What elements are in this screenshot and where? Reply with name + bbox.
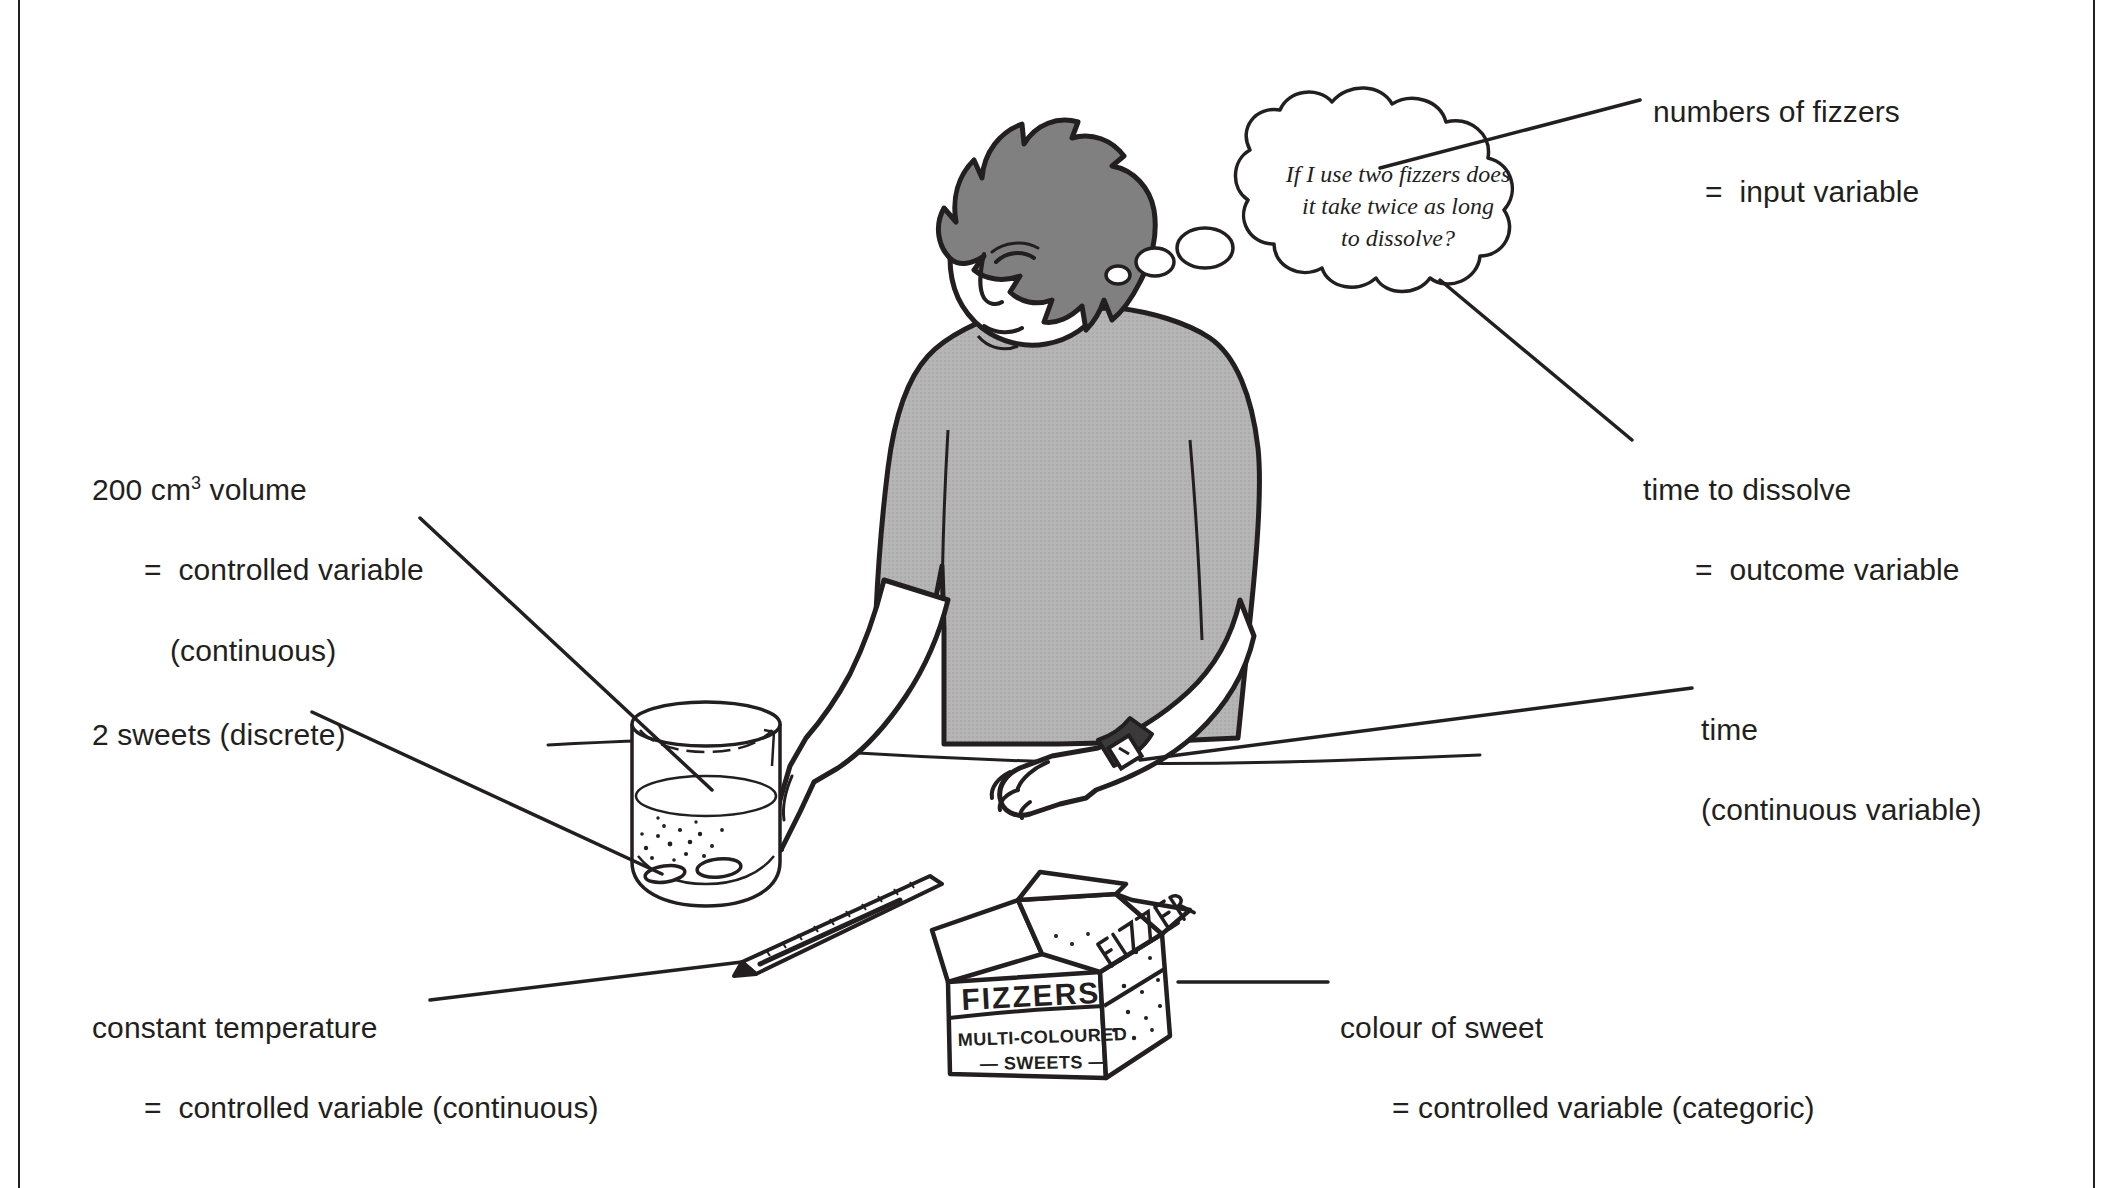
thought-bubble-text: If I use two fizzers does it take twice … bbox=[1253, 158, 1543, 254]
label-numbers-line2: = input variable bbox=[1653, 172, 1919, 211]
label-time-dissolve-line1: time to dissolve bbox=[1643, 470, 1960, 509]
sweet-box-front-mid: MULTI-COLOURED bbox=[957, 1024, 1127, 1050]
label-colour-of-sweet: colour of sweet = controlled variable (c… bbox=[1340, 966, 1815, 1169]
label-time-dissolve-line2: = outcome variable bbox=[1643, 550, 1960, 589]
label-colour-line2: = controlled variable (categoric) bbox=[1340, 1088, 1815, 1127]
thought-line-2: it take twice as long bbox=[1253, 190, 1543, 222]
label-time: time (continuous variable) bbox=[1701, 668, 1982, 871]
label-numbers-of-fizzers: numbers of fizzers = input variable bbox=[1653, 50, 1919, 253]
label-volume-word: volume bbox=[201, 473, 307, 506]
label-time-line1: time bbox=[1701, 710, 1982, 749]
label-numbers-line1: numbers of fizzers bbox=[1653, 92, 1919, 131]
label-sweets-line1: 2 sweets (discrete) bbox=[92, 715, 346, 754]
label-volume-superscript: 3 bbox=[191, 473, 201, 493]
label-temp-line1: constant temperature bbox=[92, 1008, 599, 1047]
label-volume-value: 200 cm bbox=[92, 473, 191, 506]
sweet-box-front-top: FIZZERS bbox=[961, 976, 1102, 1016]
label-constant-temperature: constant temperature = controlled variab… bbox=[92, 966, 599, 1169]
label-sweets: 2 sweets (discrete) bbox=[92, 673, 346, 795]
label-time-line2: (continuous variable) bbox=[1701, 790, 1982, 829]
thought-line-1: If I use two fizzers does bbox=[1253, 158, 1543, 190]
label-temp-line2: = controlled variable (continuous) bbox=[92, 1088, 599, 1127]
label-volume-line1: 200 cm3 volume bbox=[92, 470, 424, 509]
label-volume: 200 cm3 volume = controlled variable (co… bbox=[92, 428, 424, 711]
diagram-page: FIZZERS MULTI-COLOURED — SWEETS — If I u… bbox=[0, 0, 2125, 1188]
label-volume-line2: = controlled variable bbox=[92, 550, 424, 589]
sweet-box-front-bot: — SWEETS — bbox=[980, 1052, 1107, 1074]
label-time-to-dissolve: time to dissolve = outcome variable bbox=[1643, 428, 1960, 631]
label-volume-line3: (continuous) bbox=[92, 631, 424, 670]
thought-line-3: to dissolve? bbox=[1253, 222, 1543, 254]
label-colour-line1: colour of sweet bbox=[1340, 1008, 1815, 1047]
